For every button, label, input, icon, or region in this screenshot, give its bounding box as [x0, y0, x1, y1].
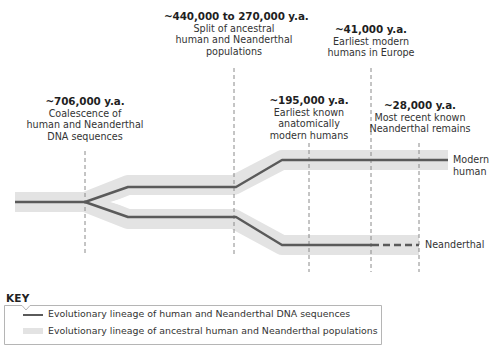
- key-item-population-lineage: Evolutionary lineage of ancestral human …: [48, 325, 378, 336]
- event-date: ~440,000 to 270,000 y.a.: [164, 10, 304, 23]
- key-title: KEY: [6, 292, 30, 304]
- event-label-440000-270000: ~440,000 to 270,000 y.a. Split of ancest…: [164, 10, 304, 57]
- upper-population-band: [85, 160, 448, 202]
- event-date: ~28,000 y.a.: [362, 99, 478, 112]
- event-label-706000: ~706,000 y.a. Coalescence of human and N…: [15, 95, 155, 142]
- event-label-41000: ~41,000 y.a. Earliest modern humans in E…: [321, 23, 421, 59]
- population-lineage-swatch: [23, 328, 43, 334]
- event-date: ~706,000 y.a.: [15, 95, 155, 108]
- lower-population-band: [85, 202, 419, 245]
- lineage-label-neanderthal: Neanderthal: [425, 239, 484, 251]
- event-label-28000: ~28,000 y.a. Most recent known Neanderth…: [362, 99, 478, 135]
- dna-lineage-swatch: [23, 314, 43, 316]
- event-date: ~195,000 y.a.: [254, 94, 364, 107]
- band-gap: [110, 197, 246, 207]
- lineage-label-modern-human: Modern human: [453, 154, 489, 177]
- event-date: ~41,000 y.a.: [321, 23, 421, 36]
- event-label-195000: ~195,000 y.a. Earliest known anatomicall…: [254, 94, 364, 141]
- key-item-dna-lineage: Evolutionary lineage of human and Neande…: [48, 308, 350, 319]
